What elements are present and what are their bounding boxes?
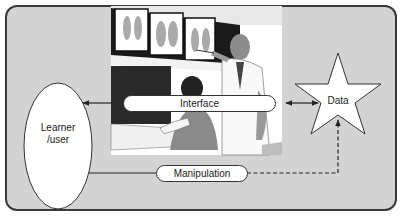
learner-node: Learner /user (28, 122, 88, 145)
interface-label: Interface (180, 98, 219, 109)
data-node: Data (318, 95, 358, 107)
data-star-icon (295, 53, 381, 134)
manipulation-node: Manipulation (156, 165, 248, 182)
manipulation-label: Manipulation (174, 168, 231, 179)
data-label: Data (327, 95, 348, 106)
learner-label-line1: Learner (28, 122, 88, 134)
learner-label-line2: /user (28, 134, 88, 146)
illustration-radiology-scene (111, 6, 282, 155)
interface-node: Interface (123, 95, 276, 112)
learner-node-shape (24, 83, 92, 209)
